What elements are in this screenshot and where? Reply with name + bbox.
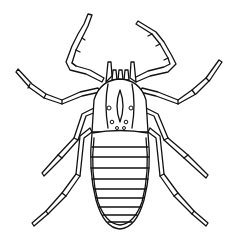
- arachnid-drawing: [0, 0, 235, 238]
- leg-second-right: [140, 60, 222, 104]
- leg-rear-left: [32, 128, 92, 226]
- leg-front-right: [134, 21, 176, 82]
- cephalothorax: [92, 79, 148, 132]
- leg-rear-right: [148, 128, 208, 226]
- illustration: arachnid line drawing (pseudoscorpion-li…: [0, 0, 235, 238]
- leg-third-right: [144, 108, 208, 178]
- leg-third-left: [42, 108, 96, 176]
- abdomen: [91, 131, 150, 230]
- leg-front-left: [66, 14, 104, 82]
